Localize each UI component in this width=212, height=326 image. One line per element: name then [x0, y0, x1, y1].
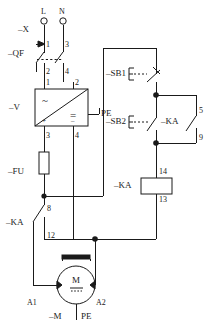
power-supply-pin-4: 4	[75, 132, 79, 140]
motor-pin-a1: A1	[27, 299, 37, 307]
relay-contact-hold-ref: –KA	[161, 117, 179, 126]
motor-circuit	[33, 239, 95, 320]
start-button-ref: –SB2	[106, 117, 126, 126]
start-button-symbol	[129, 95, 156, 143]
circuit-breaker-pin-2: 2	[46, 68, 50, 76]
motor-symbol-label: M	[72, 276, 80, 285]
motor-pe-label: PE	[81, 312, 92, 321]
relay-contact-main-ref: –KA	[6, 218, 24, 227]
power-supply-ac-symbol: ~	[42, 95, 48, 106]
circuit-breaker-pin-1: 1	[46, 41, 50, 49]
stop-button-ref: –SB1	[106, 69, 126, 78]
circuit-breaker-ref: –QF	[8, 49, 24, 58]
fuse-symbol	[39, 148, 49, 196]
relay-contact-main-symbol	[33, 196, 44, 285]
relay-coil-pin-14: 14	[159, 168, 167, 176]
relay-coil-ref: –KA	[114, 181, 132, 190]
power-supply-ref: –V	[9, 103, 20, 112]
relay-contact-main-pin-8: 8	[47, 205, 51, 213]
terminal-L-label: L	[41, 8, 46, 16]
circuit-breaker-pin-4: 4	[65, 68, 69, 76]
relay-contact-main-pin-12: 12	[47, 232, 55, 240]
power-supply-pin-2: 2	[75, 79, 79, 87]
stop-button-symbol	[129, 67, 160, 95]
relay-contact-hold-pin-9: 9	[199, 134, 203, 142]
motor-pin-a2: A2	[96, 299, 106, 307]
power-supply-negative-sign: –	[71, 118, 75, 125]
relay-contact-hold-pin-5: 5	[199, 107, 203, 115]
power-supply-pin-3: 3	[46, 132, 50, 140]
terminal-block-ref: –X	[18, 25, 29, 34]
relay-coil-pin-13: 13	[159, 196, 167, 204]
circuit-breaker-pin-3: 3	[65, 41, 69, 49]
motor-ref: –M	[49, 312, 62, 321]
power-supply-positive-sign: +	[42, 118, 46, 125]
schematic-canvas	[0, 0, 212, 326]
power-supply-pin-1: 1	[46, 79, 50, 87]
schematic-diagram: –X L N –QF 1 3 2 4 –V 1 2 ~ = PE + – 3 4…	[0, 0, 212, 326]
relay-coil-symbol	[141, 178, 172, 239]
terminal-N-label: N	[59, 8, 65, 16]
fuse-ref: –FU	[8, 167, 24, 176]
